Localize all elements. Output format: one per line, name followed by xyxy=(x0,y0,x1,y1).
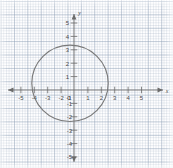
axis-arrowheads xyxy=(8,14,163,162)
x-tick-label: -5 xyxy=(18,95,24,101)
x-tick-label: -2 xyxy=(58,95,64,101)
x-axis-right-arrow-icon xyxy=(158,88,164,93)
y-tick-label: -2 xyxy=(67,114,73,120)
coordinate-plot: -5 -4 -3 -2 -1 1 2 3 4 5 5 4 3 2 1 -1 -2… xyxy=(0,0,173,168)
y-axis-name: y xyxy=(77,10,81,16)
axis-lines xyxy=(8,14,163,162)
x-tick-label: 2 xyxy=(100,95,104,101)
x-tick-label: 5 xyxy=(140,95,144,101)
x-axis-name: x xyxy=(165,88,169,94)
y-tick-label: -1 xyxy=(67,101,73,107)
x-axis-left-arrow-icon xyxy=(8,88,14,93)
y-tick-label: 1 xyxy=(66,74,70,80)
y-axis-up-arrow-icon xyxy=(72,14,77,20)
x-tick-label: -3 xyxy=(45,95,51,101)
y-tick-label: 3 xyxy=(66,47,70,53)
y-tick-label: 4 xyxy=(66,34,70,40)
y-tick-label: -4 xyxy=(67,141,73,147)
y-tick-label: 5 xyxy=(66,20,70,26)
graph-paper-screenshot: -5 -4 -3 -2 -1 1 2 3 4 5 5 4 3 2 1 -1 -2… xyxy=(0,0,173,168)
plotted-circle xyxy=(32,45,108,121)
y-tick-label: -5 xyxy=(67,154,73,160)
x-tick-label: 4 xyxy=(126,95,130,101)
x-axis-tick-labels: -5 -4 -3 -2 -1 1 2 3 4 5 xyxy=(18,95,144,101)
x-tick-label: 3 xyxy=(113,95,117,101)
y-tick-label: 2 xyxy=(66,61,70,67)
x-tick-label: 1 xyxy=(86,95,90,101)
y-tick-label: -3 xyxy=(67,128,73,134)
